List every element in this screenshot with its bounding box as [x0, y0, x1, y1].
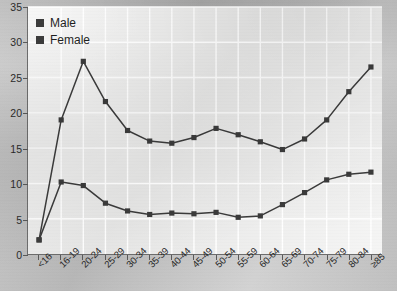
data-point-marker: [236, 215, 241, 220]
legend-label-female: Female: [50, 34, 90, 46]
data-point-marker: [147, 138, 152, 143]
legend-label-male: Male: [50, 17, 76, 29]
data-point-marker: [213, 126, 218, 131]
data-point-marker: [302, 136, 307, 141]
legend-swatch-male-icon: [36, 19, 44, 27]
y-axis-tick-label: 10: [10, 179, 22, 190]
data-point-marker: [280, 147, 285, 152]
chart-legend: Male Female: [32, 12, 97, 52]
data-point-marker: [324, 177, 329, 182]
y-axis-labels: 05101520253035: [0, 0, 22, 291]
data-point-marker: [169, 141, 174, 146]
data-point-marker: [213, 210, 218, 215]
data-point-marker: [368, 170, 373, 175]
y-axis-tick-label: 0: [16, 250, 22, 261]
data-point-marker: [147, 212, 152, 217]
data-point-marker: [103, 201, 108, 206]
chart-figure: 05101520253035 <1616-1920-2425-2930-3435…: [0, 0, 397, 291]
y-axis-tick-mark: [23, 255, 28, 256]
y-axis-tick-label: 20: [10, 108, 22, 119]
y-axis-tick-label: 15: [10, 143, 22, 154]
data-point-marker: [59, 179, 64, 184]
data-point-marker: [191, 211, 196, 216]
data-point-marker: [368, 64, 373, 69]
y-axis-tick-label: 30: [10, 37, 22, 48]
data-point-marker: [280, 202, 285, 207]
data-point-marker: [191, 135, 196, 140]
data-point-marker: [125, 128, 130, 133]
data-point-marker: [346, 172, 351, 177]
legend-item-male: Male: [36, 15, 90, 30]
data-point-marker: [103, 99, 108, 104]
data-point-marker: [324, 117, 329, 122]
data-point-marker: [236, 132, 241, 137]
data-point-marker: [125, 208, 130, 213]
legend-item-female: Female: [36, 32, 90, 47]
data-point-marker: [346, 89, 351, 94]
data-point-marker: [258, 139, 263, 144]
y-axis-tick-label: 25: [10, 73, 22, 84]
data-point-marker: [36, 237, 41, 242]
data-point-marker: [258, 213, 263, 218]
legend-swatch-female-icon: [36, 36, 44, 44]
data-point-marker: [81, 183, 86, 188]
data-point-marker: [169, 210, 174, 215]
data-point-marker: [59, 117, 64, 122]
y-axis-tick-label: 5: [16, 214, 22, 225]
data-point-marker: [302, 190, 307, 195]
data-point-marker: [81, 59, 86, 64]
series-line-female: [39, 172, 371, 240]
y-axis-tick-label: 35: [10, 2, 22, 13]
